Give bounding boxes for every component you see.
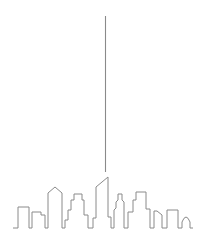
skyline-illustration bbox=[0, 0, 206, 244]
skyline-drawing bbox=[0, 0, 206, 244]
skyline-outline bbox=[13, 177, 193, 228]
